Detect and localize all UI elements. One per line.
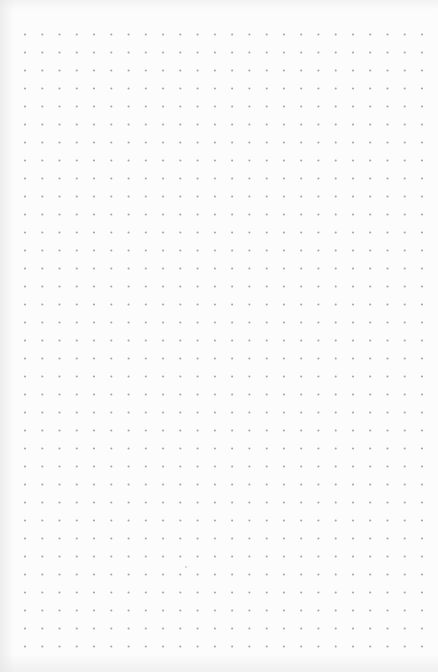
- grid-dot: [248, 159, 250, 161]
- grid-dot: [110, 303, 112, 305]
- grid-dot: [421, 267, 423, 269]
- grid-dot: [197, 555, 199, 557]
- grid-dot: [317, 321, 319, 323]
- grid-dot: [197, 177, 199, 179]
- grid-dot: [179, 537, 181, 539]
- grid-dot: [352, 393, 354, 395]
- grid-dot: [41, 231, 43, 233]
- grid-dot: [248, 33, 250, 35]
- grid-dot: [24, 339, 26, 341]
- grid-dot: [110, 213, 112, 215]
- grid-dot: [93, 519, 95, 521]
- grid-dot: [58, 555, 60, 557]
- grid-dot: [41, 159, 43, 161]
- grid-dot: [300, 51, 302, 53]
- grid-dot: [41, 141, 43, 143]
- grid-dot: [162, 447, 164, 449]
- grid-dot: [93, 249, 95, 251]
- grid-dot: [110, 537, 112, 539]
- grid-dot: [93, 375, 95, 377]
- grid-dot: [128, 555, 130, 557]
- grid-dot: [41, 285, 43, 287]
- grid-dot: [386, 303, 388, 305]
- grid-dot: [317, 87, 319, 89]
- grid-dot: [352, 105, 354, 107]
- grid-dot: [421, 375, 423, 377]
- grid-dot: [58, 33, 60, 35]
- grid-dot: [24, 51, 26, 53]
- grid-dot: [93, 483, 95, 485]
- grid-dot: [76, 231, 78, 233]
- grid-dot: [76, 339, 78, 341]
- grid-dot: [421, 465, 423, 467]
- grid-dot: [162, 123, 164, 125]
- grid-dot: [76, 537, 78, 539]
- grid-dot: [404, 393, 406, 395]
- grid-dot: [386, 159, 388, 161]
- grid-dot: [335, 249, 337, 251]
- grid-dot: [76, 321, 78, 323]
- grid-dot: [110, 609, 112, 611]
- grid-dot: [283, 285, 285, 287]
- grid-dot: [214, 591, 216, 593]
- grid-dot: [41, 105, 43, 107]
- grid-dot: [369, 627, 371, 629]
- grid-dot: [317, 195, 319, 197]
- grid-dot: [162, 195, 164, 197]
- grid-dot: [404, 429, 406, 431]
- grid-dot: [41, 123, 43, 125]
- grid-dot: [300, 357, 302, 359]
- grid-dot: [24, 285, 26, 287]
- grid-dot: [266, 141, 268, 143]
- grid-dot: [421, 627, 423, 629]
- grid-dot: [404, 375, 406, 377]
- grid-dot: [145, 321, 147, 323]
- grid-dot: [421, 483, 423, 485]
- grid-dot: [162, 483, 164, 485]
- grid-dot: [162, 321, 164, 323]
- grid-dot: [421, 411, 423, 413]
- grid-dot: [369, 231, 371, 233]
- grid-dot: [41, 429, 43, 431]
- grid-dot: [128, 573, 130, 575]
- grid-dot: [231, 357, 233, 359]
- grid-dot: [179, 231, 181, 233]
- grid-dot: [300, 141, 302, 143]
- grid-dot: [76, 159, 78, 161]
- grid-dot: [421, 33, 423, 35]
- grid-dot: [231, 267, 233, 269]
- grid-dot: [421, 339, 423, 341]
- grid-dot: [179, 609, 181, 611]
- grid-dot: [404, 483, 406, 485]
- grid-dot: [128, 375, 130, 377]
- grid-dot: [145, 33, 147, 35]
- grid-dot: [41, 195, 43, 197]
- grid-dot: [335, 123, 337, 125]
- grid-dot: [76, 645, 78, 647]
- grid-dot: [41, 609, 43, 611]
- grid-dot: [386, 465, 388, 467]
- grid-dot: [266, 483, 268, 485]
- grid-dot: [93, 123, 95, 125]
- grid-dot: [352, 177, 354, 179]
- grid-dot: [266, 555, 268, 557]
- grid-dot: [369, 519, 371, 521]
- grid-dot: [248, 645, 250, 647]
- grid-dot: [145, 285, 147, 287]
- grid-dot: [197, 33, 199, 35]
- grid-dot: [76, 429, 78, 431]
- grid-dot: [179, 141, 181, 143]
- grid-dot: [58, 69, 60, 71]
- grid-dot: [197, 519, 199, 521]
- grid-dot: [214, 267, 216, 269]
- grid-dot: [197, 357, 199, 359]
- grid-dot: [369, 537, 371, 539]
- grid-dot: [162, 159, 164, 161]
- grid-dot: [386, 69, 388, 71]
- grid-dot: [93, 609, 95, 611]
- grid-dot: [369, 267, 371, 269]
- grid-dot: [317, 375, 319, 377]
- grid-dot: [317, 105, 319, 107]
- grid-dot: [300, 87, 302, 89]
- grid-dot: [248, 447, 250, 449]
